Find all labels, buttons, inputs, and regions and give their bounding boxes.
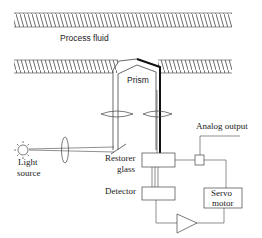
restorer-glass-label-line2: glass [117, 164, 135, 174]
prism [113, 59, 160, 150]
process-pipe-bottom-wall [14, 60, 232, 73]
process-fluid-label: Process fluid [60, 33, 109, 43]
analog-output-label: Analog output [196, 121, 248, 131]
signal-wiring [156, 136, 240, 223]
lens-left-icon [101, 111, 133, 117]
servo-motor-label-line1: Servo [211, 188, 232, 198]
incident-beam [29, 147, 114, 152]
process-pipe-top-wall [14, 13, 232, 27]
detector-box [142, 187, 175, 200]
prism-label: Prism [127, 75, 149, 85]
amplifier-icon [177, 214, 197, 233]
light-source-label-line1: Light [18, 157, 38, 167]
restorer-glass-box [142, 153, 175, 167]
output-junction-box [195, 155, 204, 165]
condenser-lens-icon [62, 137, 69, 163]
reflected-beam [137, 59, 160, 153]
light-source-label-line2: source [17, 168, 41, 178]
restorer-glass-label-line1: Restorer [105, 153, 136, 163]
servo-motor-label-line2: motor [212, 198, 234, 208]
refractometer-diagram: Process fluid Prism Light source [0, 0, 262, 238]
lens-right-icon [143, 111, 172, 117]
detector-label: Detector [105, 186, 136, 196]
